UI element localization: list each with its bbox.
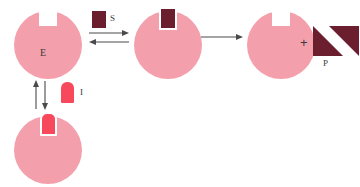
free-enzyme-label: E: [34, 48, 52, 58]
ei-complex-bound-inhibitor: [40, 112, 57, 136]
substrate-shape: [92, 11, 106, 28]
free-enzyme-active-site-notch: [39, 9, 57, 26]
product-label: P: [323, 59, 328, 68]
catalysis-arrow: [200, 31, 244, 43]
substrate-label: S: [110, 14, 115, 23]
product-triangle-right: [329, 26, 359, 56]
plus-sign: +: [300, 36, 308, 49]
inhibitor-shape: [61, 82, 74, 103]
released-enzyme-active-site-notch: [272, 9, 290, 26]
es-complex-bound-substrate: [159, 7, 177, 30]
inhibition-equilibrium-arrows: [31, 80, 51, 110]
inhibitor-label: I: [80, 88, 83, 97]
binding-equilibrium-arrows: [88, 28, 130, 48]
enzyme-inhibition-diagram: E S + P I: [0, 0, 360, 187]
